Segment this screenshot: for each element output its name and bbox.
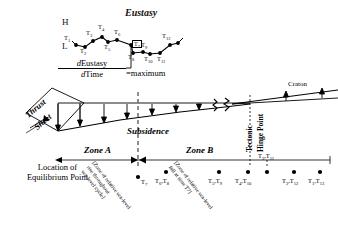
break-symbol-left [213,99,217,111]
bottom-label-t1-t13: T1,T13 [308,177,324,186]
bottom-point [217,170,221,174]
bottom-label-t7: T7 [141,178,147,187]
bottom-label-t3-t11: T3,T11 [258,152,274,161]
zone-a-label: Zone A [84,145,111,155]
bottom-point [164,170,168,174]
bottom-label-t2-t12: T2,T12 [282,177,298,186]
tectonic-hinge-label-line1: Tectonic [245,125,254,152]
figure-root: Eustasy H L T1 T2 T3 T4 T5 T6 T8 T9 T10 … [0,0,338,240]
bottom-point [246,170,250,174]
tectonic-hinge-label-line2: Hinge Point [256,114,265,152]
bottom-label-t5-t9: T5,T9 [208,177,222,186]
bottom-point [136,175,140,179]
break-symbol-right [224,98,229,111]
craton-label: Craton [288,80,307,88]
bottom-point [318,170,322,174]
zone-b-left-arrowhead [139,157,146,164]
craton-base-line [232,98,338,104]
zone-b-label: Zone B [186,145,213,155]
zone-a-right-arrowhead [131,157,138,164]
bottom-point [265,170,269,174]
subsidence-label: Subsidence [127,126,169,136]
bottom-label-t4-t10: T4,T10 [235,177,251,186]
bottom-point [292,170,296,174]
bottom-label-t6-t8: T6,T8 [155,177,169,186]
